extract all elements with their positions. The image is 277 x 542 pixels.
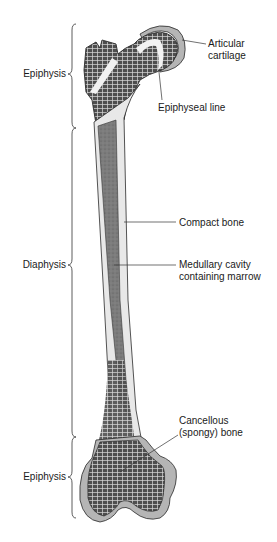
label-articular-cartilage: Articular cartilage	[208, 38, 246, 62]
label-compact-bone: Compact bone	[179, 217, 244, 229]
brace-diaphysis	[68, 128, 76, 437]
label-epiphysis-proximal: Epiphysis	[0, 68, 66, 80]
label-medullary-cavity: Medullary cavity containing marrow	[179, 259, 261, 283]
leader-articular-cartilage	[182, 40, 206, 44]
label-epiphyseal-line: Epiphyseal line	[158, 102, 225, 114]
brace-distal-epiphysis	[68, 437, 76, 518]
label-epiphysis-distal: Epiphysis	[0, 471, 66, 483]
label-cancellous-bone: Cancellous (spongy) bone	[179, 415, 243, 439]
brace-proximal-epiphysis	[68, 24, 76, 128]
label-diaphysis: Diaphysis	[0, 259, 66, 271]
leader-epiphyseal-line	[159, 72, 162, 100]
